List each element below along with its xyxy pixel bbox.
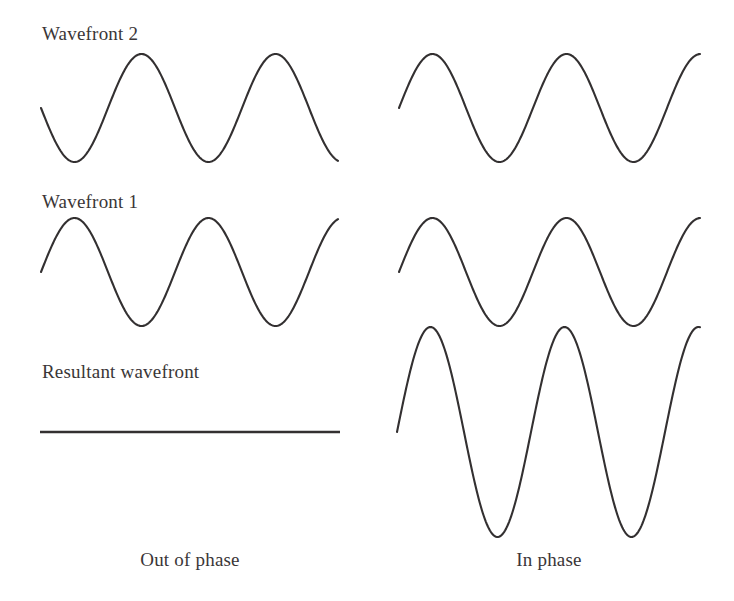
- wave-interference-figure: Wavefront 2 Wavefront 1 Resultant wavefr…: [0, 0, 734, 601]
- label-wavefront-1: Wavefront 1: [42, 191, 138, 212]
- wave-out-of-phase-wavefront-1: [41, 218, 338, 326]
- wave-in-phase-wavefront-1: [399, 218, 700, 326]
- column-captions: Out of phase In phase: [140, 549, 581, 570]
- caption-out-of-phase: Out of phase: [140, 549, 240, 570]
- caption-in-phase: In phase: [516, 549, 581, 570]
- wave-in-phase-resultant: [397, 327, 700, 537]
- column-in-phase: [397, 54, 700, 537]
- label-resultant-wavefront: Resultant wavefront: [42, 361, 200, 382]
- wave-out-of-phase-wavefront-2: [41, 54, 338, 162]
- label-wavefront-2: Wavefront 2: [42, 23, 138, 44]
- wave-in-phase-wavefront-2: [399, 54, 700, 162]
